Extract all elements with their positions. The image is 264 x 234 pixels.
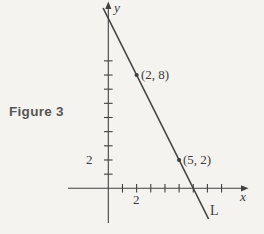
figure-3-panel: Figure 3 y x L 2 2 (2, 8) (5, 2) <box>0 0 264 234</box>
x-axis-label: x <box>240 190 246 204</box>
x-axis-tick-label-2: 2 <box>133 193 140 206</box>
point-label-2-8: (2, 8) <box>141 68 169 81</box>
point-label-5-2: (5, 2) <box>183 153 211 166</box>
y-axis-arrow <box>105 2 111 10</box>
point-dot-2-8 <box>135 73 139 77</box>
y-axis-label: y <box>114 1 120 15</box>
line-L <box>103 8 209 219</box>
line-L-label: L <box>210 204 219 218</box>
figure-caption: Figure 3 <box>9 104 64 119</box>
point-dot-5-2 <box>177 158 181 162</box>
y-axis-tick-label-2: 2 <box>86 153 93 166</box>
